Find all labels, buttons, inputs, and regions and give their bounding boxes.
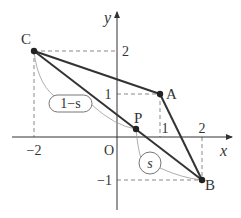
label-p: P [134,110,142,126]
ratio-label-s: s [147,156,153,171]
point-a [157,91,163,97]
point-p [133,126,139,132]
x-tick-neg2: −2 [27,143,42,158]
ratio-label-1-minus-s: 1−s [60,96,80,111]
y-tick-1: 1 [105,87,112,102]
x-tick-1: 1 [162,121,169,136]
label-b: B [205,177,215,193]
label-a: A [166,86,177,102]
x-axis-label: x [219,142,227,159]
segment-ca [34,51,160,94]
segment-cb [34,51,202,180]
label-c: C [21,31,31,47]
x-tick-2: 2 [199,121,206,136]
y-tick-neg1: −1 [97,173,112,188]
y-tick-2: 2 [122,44,129,59]
y-axis-label: y [102,9,112,27]
origin-label: O [104,143,114,158]
coordinate-diagram: 1−s s C A B P y x O −2 1 2 2 1 −1 [0,0,241,218]
point-c [31,48,37,54]
triangle [34,51,202,180]
